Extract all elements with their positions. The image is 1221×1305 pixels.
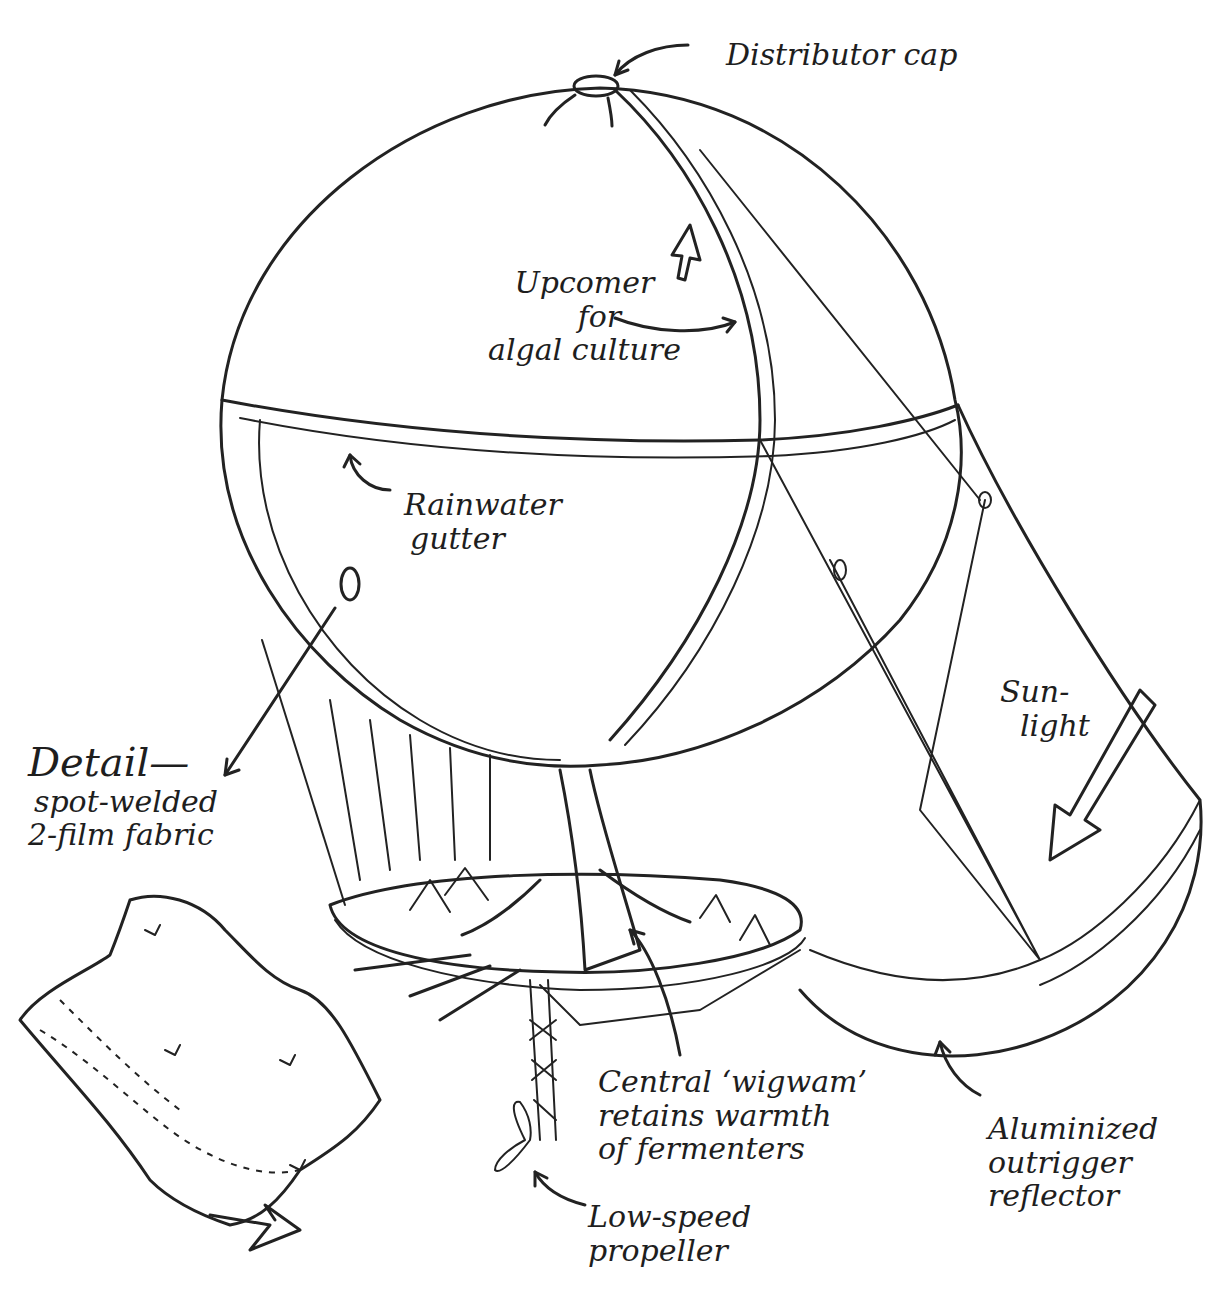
label-low-speed-propeller: Low-speed propeller (588, 1200, 751, 1267)
label-line: Aluminized (988, 1112, 1158, 1146)
outrigger-reflector (700, 150, 1201, 1056)
label-line: 2-film fabric (28, 818, 218, 852)
label-line: outrigger (988, 1146, 1158, 1180)
label-line: spot-welded (28, 785, 218, 819)
label-line: of fermenters (598, 1132, 867, 1166)
label-distributor-cap: Distributor cap (726, 38, 957, 72)
label-line: for (488, 300, 681, 334)
label-central-wigwam: Central ‘wigwam’ retains warmth of ferme… (598, 1065, 867, 1166)
label-line: light (1000, 709, 1090, 743)
label-line: Rainwater (404, 488, 562, 522)
label-line: Low-speed (588, 1200, 751, 1234)
annotation-arrows (225, 45, 1155, 1205)
label-line: Central ‘wigwam’ (598, 1065, 867, 1099)
balloon-sphere (221, 76, 961, 766)
label-line: Sun- (1000, 675, 1090, 709)
label-line: Upcomer (488, 266, 681, 300)
label-line: propeller (588, 1234, 751, 1268)
label-line: reflector (988, 1179, 1158, 1213)
label-sunlight: Sun- light (1000, 675, 1090, 742)
label-line: Detail— (28, 740, 218, 785)
label-line: retains warmth (598, 1099, 867, 1133)
label-line: algal culture (488, 333, 681, 367)
label-rainwater-gutter: Rainwater gutter (404, 488, 562, 555)
label-line: gutter (404, 522, 562, 556)
label-aluminized-reflector: Aluminized outrigger reflector (988, 1112, 1158, 1213)
label-upcomer: Upcomer for algal culture (488, 266, 681, 367)
lower-skirt (262, 640, 490, 905)
label-detail: Detail— spot-welded 2-film fabric (28, 740, 218, 852)
label-text: Distributor cap (726, 38, 957, 72)
fabric-detail (20, 896, 380, 1250)
